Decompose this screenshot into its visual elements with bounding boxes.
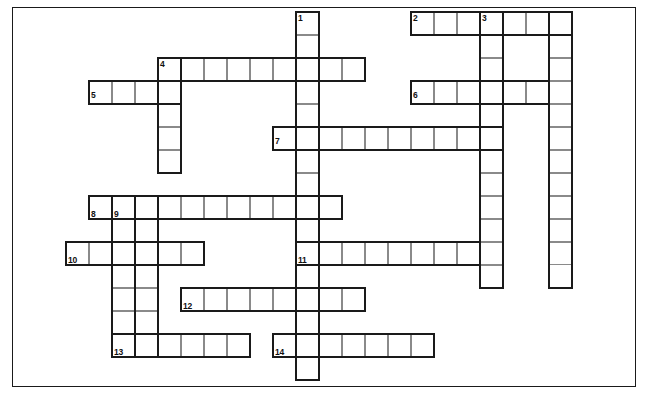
crossword-cell[interactable] (296, 58, 319, 81)
crossword-cell[interactable] (480, 265, 503, 288)
crossword-cell[interactable] (319, 127, 342, 150)
crossword-cell[interactable] (480, 58, 503, 81)
crossword-cell[interactable] (250, 58, 273, 81)
crossword-cell[interactable] (342, 127, 365, 150)
crossword-cell[interactable] (342, 288, 365, 311)
crossword-cell[interactable] (204, 334, 227, 357)
crossword-cell[interactable] (296, 150, 319, 173)
crossword-cell[interactable] (296, 219, 319, 242)
crossword-cell[interactable] (388, 127, 411, 150)
crossword-cell[interactable] (480, 196, 503, 219)
crossword-cell[interactable] (135, 265, 158, 288)
crossword-cell[interactable] (457, 81, 480, 104)
crossword-cell[interactable] (273, 288, 296, 311)
crossword-cell[interactable] (181, 58, 204, 81)
crossword-cell[interactable] (181, 334, 204, 357)
crossword-cell[interactable] (549, 35, 572, 58)
crossword-cell[interactable] (296, 104, 319, 127)
crossword-cell[interactable] (158, 242, 181, 265)
crossword-cell[interactable] (549, 150, 572, 173)
crossword-cell[interactable] (204, 58, 227, 81)
crossword-cell[interactable] (434, 12, 457, 35)
crossword-cell[interactable] (135, 196, 158, 219)
crossword-cell[interactable] (227, 196, 250, 219)
crossword-cell[interactable] (158, 150, 181, 173)
crossword-cell[interactable] (296, 81, 319, 104)
crossword-cell[interactable] (135, 311, 158, 334)
crossword-cell[interactable] (480, 81, 503, 104)
crossword-cell[interactable] (526, 81, 549, 104)
crossword-cell[interactable] (411, 334, 434, 357)
crossword-cell[interactable] (227, 334, 250, 357)
crossword-cell[interactable] (112, 81, 135, 104)
crossword-cell[interactable] (112, 242, 135, 265)
crossword-cell[interactable] (135, 334, 158, 357)
crossword-cell[interactable] (319, 334, 342, 357)
crossword-cell[interactable] (549, 242, 572, 265)
crossword-cell[interactable] (296, 196, 319, 219)
crossword-cell[interactable] (135, 242, 158, 265)
crossword-cell[interactable] (158, 104, 181, 127)
crossword-cell[interactable] (296, 265, 319, 288)
crossword-cell[interactable] (296, 35, 319, 58)
crossword-cell[interactable] (526, 12, 549, 35)
crossword-cell[interactable] (158, 81, 181, 104)
crossword-cell[interactable] (158, 127, 181, 150)
crossword-cell[interactable] (273, 58, 296, 81)
crossword-cell[interactable] (434, 81, 457, 104)
crossword-cell[interactable] (480, 35, 503, 58)
crossword-cell[interactable] (549, 173, 572, 196)
crossword-cell[interactable] (549, 81, 572, 104)
crossword-cell[interactable] (365, 242, 388, 265)
crossword-cell[interactable] (434, 242, 457, 265)
crossword-cell[interactable] (296, 334, 319, 357)
crossword-cell[interactable] (342, 58, 365, 81)
crossword-cell[interactable] (204, 196, 227, 219)
crossword-cell[interactable] (204, 288, 227, 311)
crossword-cell[interactable] (480, 173, 503, 196)
crossword-cell[interactable] (457, 12, 480, 35)
crossword-cell[interactable] (549, 12, 572, 35)
crossword-cell[interactable] (549, 104, 572, 127)
crossword-cell[interactable] (388, 334, 411, 357)
crossword-cell[interactable] (319, 288, 342, 311)
crossword-cell[interactable] (273, 196, 296, 219)
crossword-cell[interactable] (411, 242, 434, 265)
crossword-cell[interactable] (250, 288, 273, 311)
crossword-cell[interactable] (112, 265, 135, 288)
crossword-cell[interactable] (342, 334, 365, 357)
crossword-cell[interactable] (319, 196, 342, 219)
crossword-cell[interactable] (158, 196, 181, 219)
crossword-cell[interactable] (89, 242, 112, 265)
crossword-cell[interactable] (319, 58, 342, 81)
crossword-cell[interactable] (549, 219, 572, 242)
crossword-cell[interactable] (319, 242, 342, 265)
crossword-cell[interactable] (503, 12, 526, 35)
crossword-cell[interactable] (365, 127, 388, 150)
crossword-cell[interactable] (181, 196, 204, 219)
crossword-cell[interactable] (158, 334, 181, 357)
crossword-cell[interactable] (457, 127, 480, 150)
crossword-cell[interactable] (503, 81, 526, 104)
crossword-cell[interactable] (434, 127, 457, 150)
crossword-cell[interactable] (480, 104, 503, 127)
crossword-cell[interactable] (549, 127, 572, 150)
crossword-cell[interactable] (135, 219, 158, 242)
crossword-cell[interactable] (480, 242, 503, 265)
crossword-cell[interactable] (480, 150, 503, 173)
crossword-cell[interactable] (227, 58, 250, 81)
crossword-cell[interactable] (135, 288, 158, 311)
crossword-cell[interactable] (135, 81, 158, 104)
crossword-cell[interactable] (342, 242, 365, 265)
crossword-cell[interactable] (411, 127, 434, 150)
crossword-cell[interactable] (112, 288, 135, 311)
crossword-cell[interactable] (480, 219, 503, 242)
crossword-cell[interactable] (480, 127, 503, 150)
crossword-cell[interactable] (112, 219, 135, 242)
crossword-cell[interactable] (457, 242, 480, 265)
crossword-cell[interactable] (227, 288, 250, 311)
crossword-cell[interactable] (250, 196, 273, 219)
crossword-cell[interactable] (181, 242, 204, 265)
crossword-cell[interactable] (296, 173, 319, 196)
crossword-cell[interactable] (549, 196, 572, 219)
